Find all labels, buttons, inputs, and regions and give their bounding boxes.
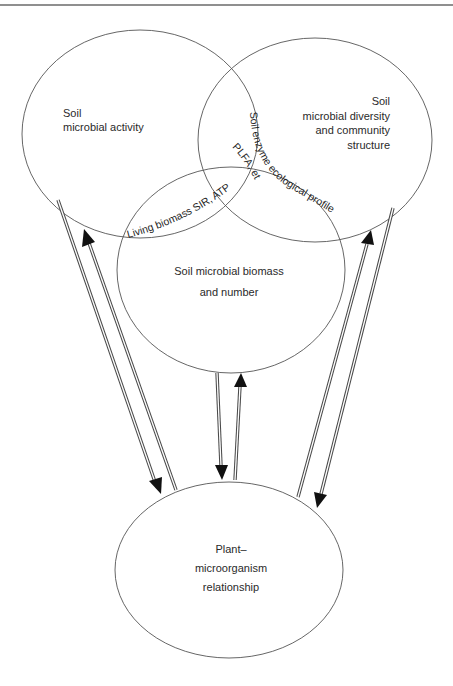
plant-label-line-2: microorganism (195, 562, 267, 574)
soil-microbe-venn-diagram: Soil microbial activity Soil microbial d… (0, 0, 453, 686)
node-soil-microbial-diversity (198, 38, 432, 242)
overlap-label-plfa-path: PLFA, etc. (0, 0, 264, 181)
arrow-head-up-icon (82, 229, 95, 247)
arrow-plant-to-activity (82, 229, 176, 490)
arrow-head-up-icon (361, 230, 374, 245)
biomass-label-line-2: and number (200, 286, 259, 298)
diversity-label-line-3: and community (315, 124, 390, 136)
activity-label-line-1: Soil (63, 107, 81, 119)
arrow-head-down-icon (314, 492, 327, 508)
plant-label-line-3: relationship (203, 581, 259, 593)
node-soil-microbial-activity (22, 30, 258, 238)
activity-label-line-2: microbial activity (63, 121, 144, 133)
arrow-head-up-icon (234, 373, 247, 387)
arrow-head-down-icon (215, 465, 228, 480)
arrow-head-down-icon (149, 477, 162, 494)
arrow-biomass-to-plant (215, 373, 228, 480)
diversity-label-line-4: structure (347, 139, 390, 151)
arrow-plant-to-diversity (298, 230, 374, 497)
diversity-label-line-2: microbial diversity (303, 110, 391, 122)
plant-label-line-1: Plant– (215, 543, 247, 555)
arrow-plant-to-biomass (234, 373, 247, 480)
overlap-label-living-biomass-path: Living biomass SIR, ATP (125, 181, 232, 240)
overlap-label-living-biomass: Living biomass SIR, ATP (125, 181, 232, 240)
biomass-label-line-1: Soil microbial biomass (174, 265, 284, 277)
diversity-label-line-1: Soil (372, 95, 390, 107)
overlap-label-plfa: PLFA, etc. (0, 0, 264, 181)
arrow-diversity-to-plant (314, 208, 393, 508)
arrow-activity-to-plant (58, 200, 162, 494)
